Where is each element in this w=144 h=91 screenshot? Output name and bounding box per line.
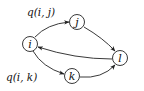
graph-diagram: i j k l q(i, j) q(i, k): [0, 0, 144, 91]
node-i-label: i: [28, 38, 32, 51]
node-l: l: [113, 51, 128, 66]
edge-l-i: [38, 47, 112, 59]
edge-i-j: [35, 22, 69, 37]
node-k: k: [65, 69, 80, 84]
node-i: i: [23, 37, 38, 52]
edge-label-q-i-j: q(i, j): [27, 6, 55, 18]
node-j: j: [70, 15, 85, 30]
node-k-label: k: [69, 70, 76, 83]
edge-k-l: [80, 65, 115, 77]
edge-label-q-i-k: q(i, k): [6, 71, 37, 83]
edge-i-k: [33, 51, 64, 74]
edge-j-l: [84, 27, 115, 51]
node-l-label: l: [118, 52, 122, 65]
